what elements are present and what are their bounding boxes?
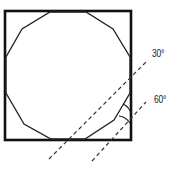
angle-label-60: 60° xyxy=(154,94,166,105)
diagram-canvas xyxy=(0,0,180,178)
angle-arc-upper xyxy=(123,104,130,111)
angle-label-30: 30° xyxy=(152,48,164,59)
angle-arc-lower xyxy=(119,116,130,123)
inscribed-dodecagon xyxy=(6,12,130,139)
